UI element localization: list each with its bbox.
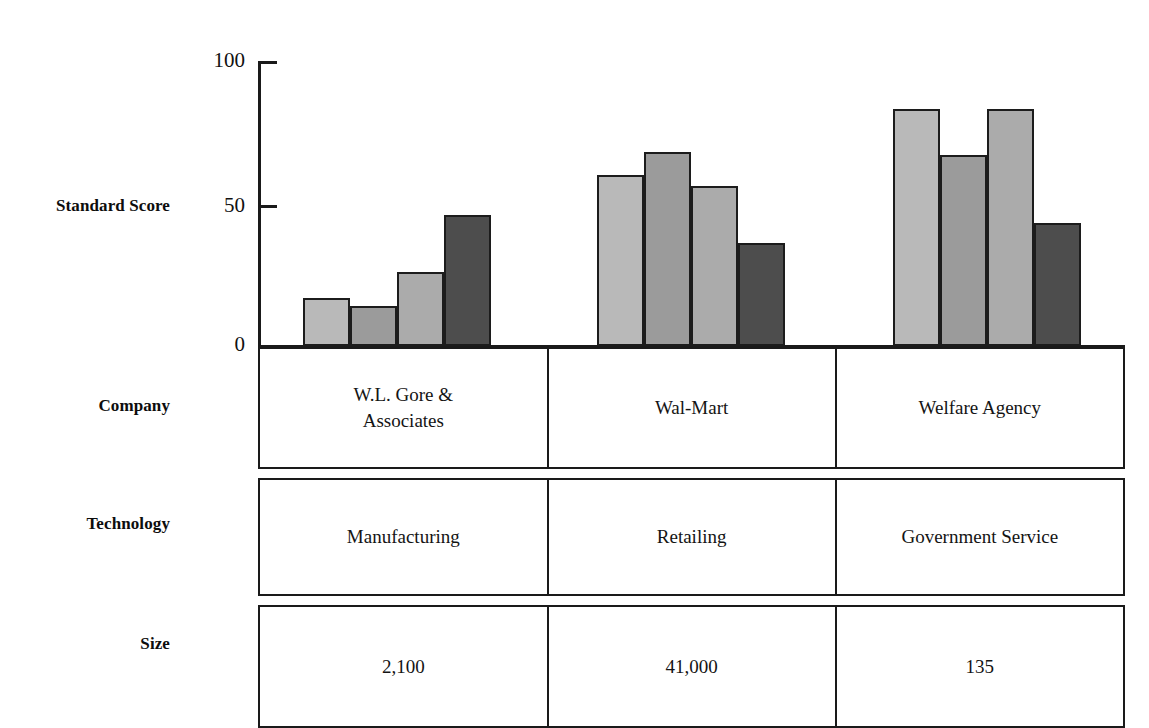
bar-1-1 [644,152,691,346]
row-label-size: Size [0,634,170,654]
bar-1-2 [691,186,738,346]
row-label-company: Company [0,396,170,416]
chart-plot-area: 100 50 0 [0,0,1149,360]
bar-0-1 [350,306,397,346]
table-row-company: W.L. Gore & Associates Wal-Mart Welfare … [259,348,1124,468]
cell-technology-col3: Government Service [836,479,1124,595]
cell-company-col1-line2: Associates [363,410,444,431]
cell-company-col2: Wal-Mart [548,348,836,468]
bars-layer [0,61,1149,346]
bar-2-0 [893,109,940,346]
cell-technology-col1: Manufacturing [259,479,548,595]
bar-2-2 [987,109,1034,346]
bar-1-0 [597,175,644,346]
bar-0-0 [303,298,350,346]
spacer-cell [836,468,1124,479]
table-row-technology: Manufacturing Retailing Government Servi… [259,479,1124,595]
company-info-table: W.L. Gore & Associates Wal-Mart Welfare … [258,347,1125,728]
spacer-cell [548,595,836,606]
bar-0-2 [397,272,444,346]
cell-company-col3: Welfare Agency [836,348,1124,468]
spacer-cell [548,468,836,479]
cell-size-col2: 41,000 [548,606,836,727]
bar-1-3 [738,243,785,346]
spacer-cell [259,468,548,479]
row-label-technology: Technology [0,514,170,534]
table-row-size: 2,100 41,000 135 [259,606,1124,727]
spacer-cell [836,595,1124,606]
cell-company-col1: W.L. Gore & Associates [259,348,548,468]
bar-group-1 [597,59,785,346]
cell-size-col1: 2,100 [259,606,548,727]
cell-size-col3: 135 [836,606,1124,727]
table-spacer-1 [259,468,1124,479]
bar-2-1 [940,155,987,346]
bar-group-0 [303,59,491,346]
table-spacer-2 [259,595,1124,606]
bar-0-3 [444,215,491,346]
cell-technology-col2: Retailing [548,479,836,595]
bar-2-3 [1034,223,1081,346]
spacer-cell [259,595,548,606]
cell-company-col1-line1: W.L. Gore & [354,384,454,405]
bar-group-2 [893,59,1081,346]
